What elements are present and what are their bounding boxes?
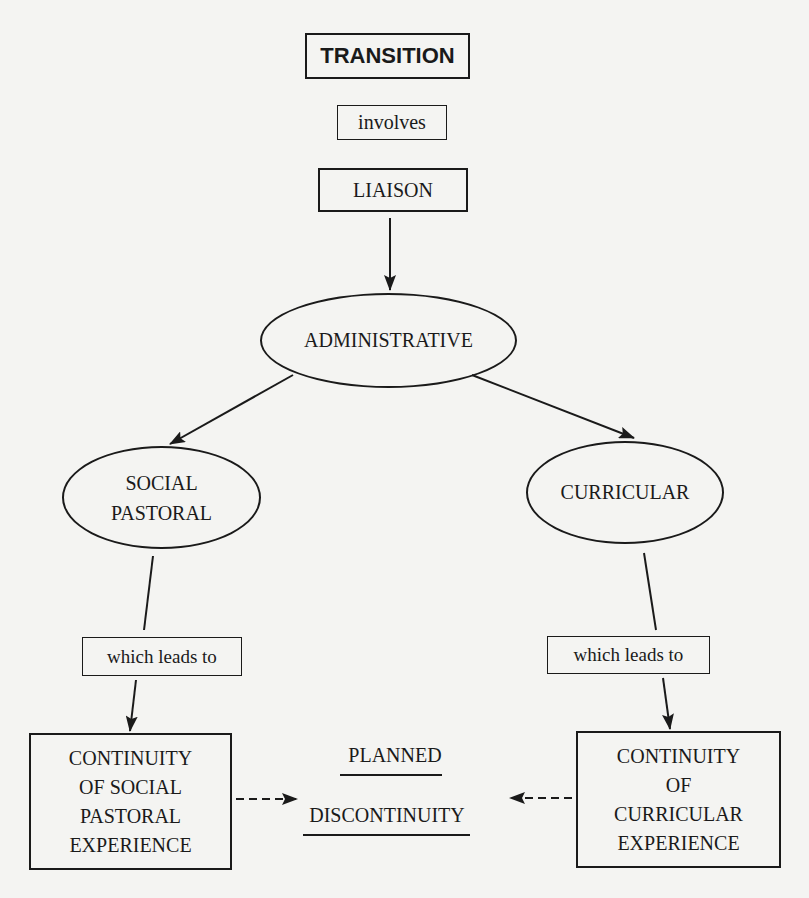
involves-label: involves [358, 111, 426, 134]
planned-underline [340, 774, 442, 776]
discontinuity-label: DISCONTINUITY [298, 804, 476, 827]
continuity-curricular-line-2: OF [666, 771, 692, 800]
administrative-node: ADMINISTRATIVE [260, 293, 517, 388]
which-leads-to-left-node: which leads to [82, 637, 242, 676]
liaison-label: LIAISON [353, 179, 433, 202]
involves-node: involves [337, 105, 447, 140]
arrow-leads-continuity-social [130, 680, 136, 731]
continuity-curricular-line-3: CURRICULAR [614, 800, 743, 829]
line-social-leads [144, 556, 153, 630]
which-leads-to-left-label: which leads to [107, 645, 217, 669]
which-leads-to-right-node: which leads to [547, 636, 710, 674]
arrow-leads-continuity-curricular [663, 678, 670, 729]
continuity-social-line-2: OF SOCIAL [79, 773, 182, 802]
curricular-label: CURRICULAR [561, 481, 690, 504]
curricular-node: CURRICULAR [526, 441, 724, 544]
social-pastoral-node: SOCIAL PASTORAL [62, 446, 261, 549]
discontinuity-underline [303, 834, 470, 836]
which-leads-to-right-label: which leads to [574, 643, 684, 667]
social-pastoral-label-2: PASTORAL [111, 498, 212, 528]
administrative-label: ADMINISTRATIVE [304, 329, 473, 352]
transition-label: TRANSITION [320, 43, 454, 69]
continuity-curricular-line-1: CONTINUITY [617, 742, 740, 771]
social-pastoral-label-1: SOCIAL [125, 468, 197, 498]
continuity-curricular-node: CONTINUITY OF CURRICULAR EXPERIENCE [576, 731, 781, 868]
transition-node: TRANSITION [305, 33, 470, 79]
planned-label: PLANNED [330, 744, 460, 767]
continuity-social-line-1: CONTINUITY [69, 744, 192, 773]
continuity-social-node: CONTINUITY OF SOCIAL PASTORAL EXPERIENCE [29, 733, 232, 870]
continuity-social-line-4: EXPERIENCE [69, 831, 191, 860]
line-curricular-leads [644, 553, 656, 630]
continuity-social-line-3: PASTORAL [80, 802, 181, 831]
liaison-node: LIAISON [318, 168, 468, 212]
continuity-curricular-line-4: EXPERIENCE [617, 829, 739, 858]
arrow-admin-social [170, 375, 293, 444]
arrow-admin-curricular [472, 375, 634, 438]
